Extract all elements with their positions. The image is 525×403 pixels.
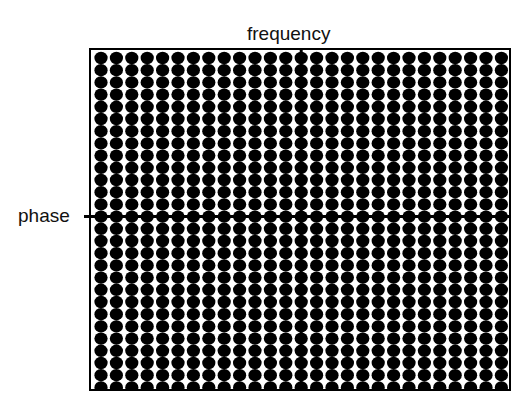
dot-grid-diagram bbox=[0, 0, 525, 403]
